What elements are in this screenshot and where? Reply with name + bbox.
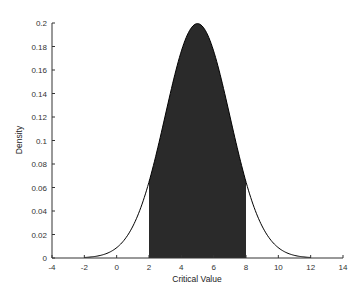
shaded-region: [149, 24, 246, 258]
y-tick-label: 0.16: [31, 66, 47, 75]
x-tick-label: 14: [339, 263, 348, 272]
y-tick-label: 0: [43, 254, 48, 263]
y-tick-label: 0.18: [31, 43, 47, 52]
x-tick-label: 8: [244, 263, 249, 272]
y-axis-label: Density: [14, 125, 24, 154]
y-tick-label: 0.02: [31, 231, 47, 240]
y-tick-label: 0.06: [31, 184, 47, 193]
x-tick-label: 10: [274, 263, 283, 272]
x-tick-label: 6: [211, 263, 216, 272]
y-tick-label: 0.04: [31, 207, 47, 216]
y-tick-label: 0.14: [31, 90, 47, 99]
density-chart: 00.020.040.060.080.10.120.140.160.180.2 …: [0, 0, 364, 294]
x-tick-label: 12: [306, 263, 315, 272]
y-tick-label: 0.1: [36, 137, 48, 146]
x-tick-label: 4: [179, 263, 184, 272]
y-tick-label: 0.2: [36, 19, 48, 28]
x-tick-label: 0: [114, 263, 119, 272]
y-ticks: 00.020.040.060.080.10.120.140.160.180.2: [31, 19, 55, 263]
x-axis-label: Critical Value: [172, 274, 222, 284]
y-tick-label: 0.12: [31, 113, 47, 122]
x-tick-label: -2: [81, 263, 89, 272]
x-tick-label: 2: [147, 263, 152, 272]
x-tick-label: -4: [48, 263, 56, 272]
y-tick-label: 0.08: [31, 160, 47, 169]
